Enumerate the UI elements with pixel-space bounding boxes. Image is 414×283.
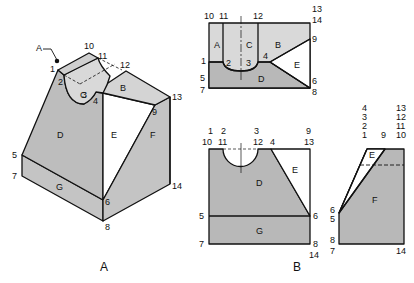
front-point-11: 11 bbox=[218, 137, 227, 147]
label-g: G bbox=[56, 182, 63, 192]
point-8: 8 bbox=[105, 222, 110, 232]
front-point-1: 1 bbox=[208, 126, 213, 136]
front-label-g: G bbox=[256, 226, 263, 236]
side-point-1: 1 bbox=[362, 130, 367, 140]
top-point-4: 4 bbox=[263, 51, 268, 61]
side-point-9: 9 bbox=[381, 130, 386, 140]
top-label-a: A bbox=[214, 40, 220, 50]
point-4: 4 bbox=[93, 96, 98, 106]
top-point-3: 3 bbox=[246, 58, 251, 68]
top-point-1: 1 bbox=[201, 56, 206, 66]
top-label-b: B bbox=[275, 40, 281, 50]
point-13: 13 bbox=[172, 92, 182, 102]
front-point-5: 5 bbox=[199, 211, 204, 221]
point-12: 12 bbox=[120, 60, 130, 70]
top-point-9: 9 bbox=[312, 34, 317, 44]
front-point-4: 4 bbox=[270, 137, 275, 147]
front-point-13: 13 bbox=[304, 137, 314, 147]
point-2: 2 bbox=[58, 77, 63, 87]
top-point-12: 12 bbox=[253, 11, 263, 21]
point-14: 14 bbox=[172, 181, 182, 191]
front-point-14: 14 bbox=[309, 250, 319, 260]
top-point-6: 6 bbox=[312, 76, 317, 86]
top-label-c: C bbox=[246, 40, 253, 50]
label-f: F bbox=[150, 130, 156, 140]
label-e: E bbox=[111, 130, 117, 140]
caption-b: B bbox=[293, 260, 301, 274]
front-label-e: E bbox=[292, 165, 298, 175]
pictorial-view bbox=[22, 49, 170, 221]
point-3: 3 bbox=[82, 90, 87, 100]
top-point-10: 10 bbox=[204, 11, 214, 21]
top-point-2: 2 bbox=[226, 58, 231, 68]
front-point-10: 10 bbox=[202, 137, 212, 147]
label-d: D bbox=[57, 130, 64, 140]
point-7: 7 bbox=[12, 171, 17, 181]
top-point-7: 7 bbox=[200, 85, 205, 95]
front-point-6: 6 bbox=[313, 211, 318, 221]
front-point-9: 9 bbox=[306, 126, 311, 136]
point-5: 5 bbox=[12, 150, 17, 160]
top-point-5: 5 bbox=[200, 73, 205, 83]
front-point-2: 2 bbox=[221, 126, 226, 136]
caption-a: A bbox=[100, 260, 108, 274]
top-point-11: 11 bbox=[219, 11, 228, 21]
front-point-12: 12 bbox=[253, 137, 263, 147]
label-b: B bbox=[120, 83, 126, 93]
orthographic-drawing: A C B D E F G 1 2 3 4 5 6 7 8 9 10 11 12… bbox=[0, 0, 414, 283]
point-11: 11 bbox=[98, 51, 107, 61]
front-point-8: 8 bbox=[313, 239, 318, 249]
front-point-7: 7 bbox=[199, 239, 204, 249]
top-point-14: 14 bbox=[312, 15, 322, 25]
side-point-7: 7 bbox=[330, 246, 335, 256]
point-10: 10 bbox=[84, 41, 94, 51]
front-label-d: D bbox=[256, 178, 263, 188]
side-label-e: E bbox=[369, 150, 375, 160]
side-point-8: 8 bbox=[330, 235, 335, 245]
point-1: 1 bbox=[50, 64, 55, 74]
top-point-13: 13 bbox=[312, 4, 322, 14]
side-point-10: 10 bbox=[396, 130, 406, 140]
label-a: A bbox=[36, 43, 42, 53]
top-point-8: 8 bbox=[312, 87, 317, 97]
side-point-5: 5 bbox=[330, 214, 335, 224]
point-9: 9 bbox=[152, 107, 157, 117]
top-label-d: D bbox=[258, 74, 265, 84]
side-label-f: F bbox=[372, 195, 378, 205]
point-6: 6 bbox=[105, 197, 110, 207]
front-point-3: 3 bbox=[254, 126, 259, 136]
top-label-e: E bbox=[294, 60, 300, 70]
side-point-14: 14 bbox=[396, 246, 406, 256]
